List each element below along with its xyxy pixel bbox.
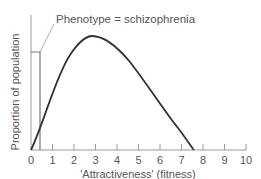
x-tick-labels: 0 1 2 3 4 5 6 7 8 9 10 bbox=[28, 154, 252, 166]
tick-label: 2 bbox=[71, 154, 77, 166]
y-axis-label: Proportion of population bbox=[9, 34, 21, 151]
annotation-leader bbox=[40, 24, 54, 52]
tick-label: 9 bbox=[221, 154, 227, 166]
tick-label: 4 bbox=[114, 154, 120, 166]
schizophrenia-bar bbox=[31, 52, 40, 150]
x-ticks bbox=[53, 144, 247, 150]
annotation-label: Phenotype = schizophrenia bbox=[56, 13, 196, 25]
tick-label: 3 bbox=[92, 154, 98, 166]
tick-label: 8 bbox=[200, 154, 206, 166]
chart: 0 1 2 3 4 5 6 7 8 9 10 'Attractiveness' … bbox=[0, 0, 261, 179]
tick-label: 1 bbox=[49, 154, 55, 166]
tick-label: 10 bbox=[240, 154, 252, 166]
tick-label: 5 bbox=[135, 154, 141, 166]
tick-label: 7 bbox=[178, 154, 184, 166]
distribution-curve bbox=[31, 36, 194, 150]
tick-label: 6 bbox=[157, 154, 163, 166]
x-axis-label: 'Attractiveness' (fitness) bbox=[80, 168, 195, 179]
tick-label: 0 bbox=[28, 154, 34, 166]
